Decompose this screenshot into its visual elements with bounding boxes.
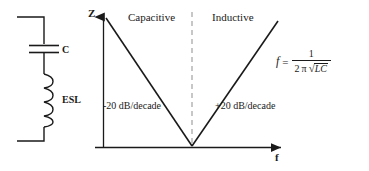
resonance-frequency-formula: f = 1 2 π √ LC <box>276 49 331 75</box>
capacitor-label: C <box>62 45 69 55</box>
formula-den-two: 2 <box>295 64 300 74</box>
capacitive-region-label: Capacitive <box>128 12 175 23</box>
formula-variable-f: f <box>276 54 279 69</box>
inductive-slope-line <box>192 21 278 146</box>
x-axis-label: f <box>275 152 279 163</box>
inductor-coil-icon <box>44 74 53 127</box>
formula-numerator: 1 <box>303 49 320 60</box>
inductive-slope-label: +20 dB/decade <box>215 101 275 111</box>
capacitive-slope-line <box>106 18 192 146</box>
formula-equals-sign: = <box>282 56 288 68</box>
formula-radicand: LC <box>314 63 328 75</box>
formula-fraction: 1 2 π √ LC <box>292 49 331 75</box>
circuit-top-lead <box>17 17 44 44</box>
y-axis-label: Z <box>88 8 95 19</box>
inductor-esl-label: ESL <box>62 95 81 105</box>
impedance-figure: C ESL Z f Capacitive Inductive -20 dB/de… <box>0 0 369 171</box>
formula-radical: √ LC <box>309 63 328 75</box>
formula-denominator: 2 π √ LC <box>292 61 331 75</box>
capacitive-slope-label: -20 dB/decade <box>103 101 161 111</box>
figure-vector-layer <box>0 0 369 171</box>
inductive-region-label: Inductive <box>212 12 254 23</box>
circuit-bottom-lead <box>17 127 44 141</box>
formula-den-pi: π <box>302 64 307 74</box>
